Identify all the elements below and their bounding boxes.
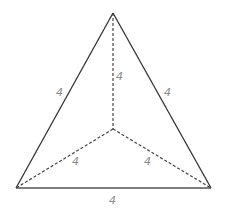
bottom-edge-label: 4 [109,194,116,207]
right-hidden-edge [113,129,211,188]
right-edge-label: 4 [164,86,171,99]
tetrahedron-diagram: 4 4 4 4 4 4 [0,0,226,213]
diagram-canvas: 4 4 4 4 4 4 [0,0,226,213]
left-edge-label: 4 [56,86,63,99]
right-hidden-edge-label: 4 [144,155,151,168]
vertical-edge-label: 4 [116,70,123,83]
left-hidden-edge-label: 4 [72,155,79,168]
left-hidden-edge [16,129,113,188]
left-edge [16,13,113,188]
right-edge [113,13,211,188]
